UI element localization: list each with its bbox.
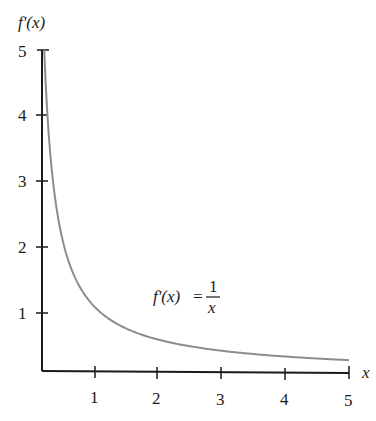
x-tick-label-3: 3 — [216, 390, 225, 409]
svg-text:f'(x): f'(x) — [153, 287, 181, 306]
y-tick-label-3: 3 — [18, 172, 27, 191]
curve-annotation: f'(x) = 1 x — [153, 277, 220, 317]
x-axis-label: x — [361, 363, 370, 382]
chart: f'(x) 5 4 3 2 1 1 2 3 4 5 x f'(x) = 1 x — [0, 0, 376, 421]
x-tick-label-4: 4 — [280, 390, 289, 409]
x-tick-label-2: 2 — [152, 389, 161, 408]
x-tick-label-5: 5 — [344, 391, 353, 410]
y-tick-label-1: 1 — [18, 304, 27, 323]
svg-text:1: 1 — [209, 277, 218, 296]
y-tick-label-5: 5 — [18, 42, 27, 61]
y-axis-label: f'(x) — [18, 13, 46, 32]
y-tick-label-2: 2 — [18, 238, 27, 257]
svg-text:=: = — [193, 287, 203, 306]
x-axis — [42, 371, 349, 373]
y-tick-label-4: 4 — [18, 106, 27, 125]
curve-1-over-x — [44, 50, 349, 360]
x-tick-label-1: 1 — [90, 388, 99, 407]
svg-text:x: x — [207, 298, 216, 317]
